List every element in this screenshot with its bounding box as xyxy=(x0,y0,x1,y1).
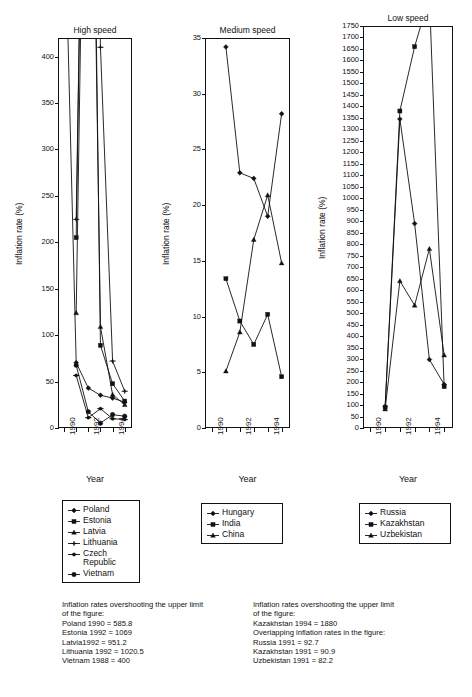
figure-root: High speedInflation rate (%)050100150200… xyxy=(0,0,472,697)
legend-marker-square-icon xyxy=(364,519,380,528)
chart-panel-3: Low speedInflation rate (%)0501001502002… xyxy=(0,0,472,697)
legend-label: Russia xyxy=(380,508,406,517)
legend-label: Kazakhstan xyxy=(380,519,424,528)
series-line xyxy=(385,249,444,409)
legend-label: Uzbekistan xyxy=(380,530,422,539)
x-axis-label: Year xyxy=(343,474,472,484)
chart-footnote: Inflation rates overshooting the upper l… xyxy=(253,600,468,666)
legend-marker-diamond-icon xyxy=(364,508,380,517)
series-line xyxy=(385,0,444,407)
legend-item[interactable]: Uzbekistan xyxy=(364,530,445,539)
legend-marker-triangle-icon xyxy=(364,530,380,539)
legend-item[interactable]: Russia xyxy=(364,508,445,517)
legend-item[interactable]: Kazakhstan xyxy=(364,519,445,528)
chart-legend: RussiaKazakhstanUzbekistan xyxy=(359,503,451,544)
series-layer xyxy=(0,0,472,697)
